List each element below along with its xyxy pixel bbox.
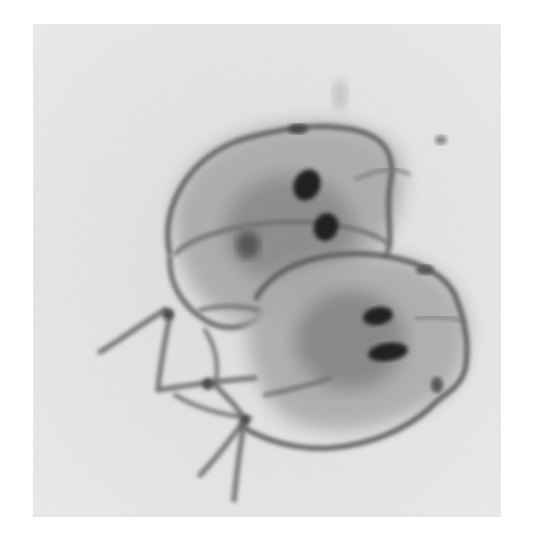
micrograph-frame <box>33 24 501 517</box>
micrograph-image <box>33 24 501 517</box>
image-caption: Micrograph of two pear-shaped flagellate… <box>0 0 1 1</box>
